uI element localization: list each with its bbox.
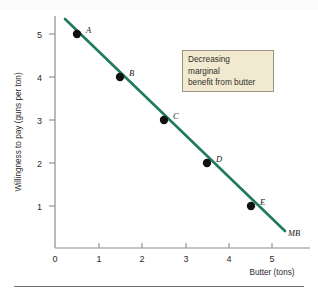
y-tick-label-2: 2 (37, 159, 42, 169)
data-point-A (73, 30, 81, 38)
x-tick-label-2: 2 (139, 254, 144, 264)
data-point-label-B: B (129, 68, 134, 78)
data-point-label-C: C (173, 111, 179, 121)
x-tick-label-5: 5 (269, 254, 274, 264)
note-line-2: marginal (188, 66, 269, 78)
note-line-3: benefit from butter (188, 77, 269, 89)
x-axis-title: Butter (tons) (249, 268, 294, 277)
data-point-label-D: D (215, 154, 223, 164)
footer-divider (14, 286, 304, 287)
data-point-E (247, 202, 255, 210)
note-line-1: Decreasing (188, 54, 269, 66)
x-tick-label-0: 0 (52, 254, 57, 264)
x-tick-label-1: 1 (96, 254, 101, 264)
y-axis-ticks (49, 34, 55, 206)
curve-label-mb: MB (287, 228, 300, 238)
data-point-label-A: A (85, 25, 92, 35)
y-tick-label-1: 1 (37, 202, 42, 212)
y-tick-label-3: 3 (37, 116, 42, 126)
y-tick-label-5: 5 (37, 30, 42, 40)
data-point-C (160, 116, 168, 124)
y-tick-label-4: 4 (37, 73, 42, 83)
x-axis-ticks (99, 243, 272, 248)
figure-container: 5 4 3 2 1 0 1 2 3 4 5 Willingness to pay… (0, 0, 318, 294)
data-point-label-E: E (259, 197, 266, 207)
data-point-B (116, 73, 124, 81)
marginal-benefit-chart: 5 4 3 2 1 0 1 2 3 4 5 Willingness to pay… (0, 0, 318, 294)
x-tick-label-3: 3 (183, 254, 188, 264)
x-tick-label-4: 4 (226, 254, 231, 264)
data-point-D (203, 159, 211, 167)
decreasing-marginal-benefit-note: Decreasing marginal benefit from butter (182, 50, 274, 92)
y-axis-title: Willingness to pay (guns per ton) (14, 72, 23, 192)
